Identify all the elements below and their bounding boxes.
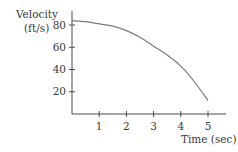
velocity-chart: 2040608012345 [0, 0, 238, 152]
x-tick-label: 4 [177, 120, 184, 132]
y-tick-label: 80 [53, 19, 66, 31]
velocity-curve [72, 21, 208, 101]
x-tick-label: 5 [205, 120, 212, 132]
y-tick-label: 60 [53, 41, 66, 53]
x-tick-label: 2 [123, 120, 130, 132]
y-tick-label: 20 [53, 85, 66, 97]
y-tick-label: 40 [53, 63, 66, 75]
x-tick-label: 1 [96, 120, 103, 132]
x-tick-label: 3 [150, 120, 157, 132]
